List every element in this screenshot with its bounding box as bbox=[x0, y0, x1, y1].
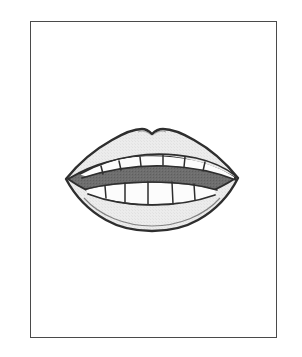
page-canvas: Black and white line art of an open smil… bbox=[0, 0, 302, 357]
lower-tooth-divider-4 bbox=[172, 182, 173, 204]
mouth-illustration bbox=[0, 0, 302, 357]
upper-tooth-divider-3 bbox=[140, 157, 141, 166]
lower-tooth-divider-1 bbox=[105, 186, 106, 198]
lower-tooth-divider-5 bbox=[194, 184, 195, 200]
upper-tooth-divider-5 bbox=[184, 157, 185, 167]
